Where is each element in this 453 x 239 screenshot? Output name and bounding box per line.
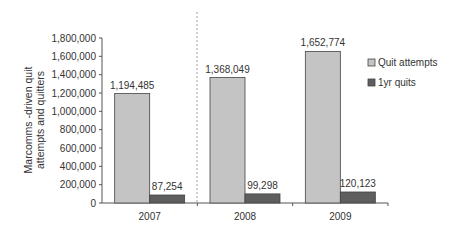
- bar-1yr-quits-2007: [150, 195, 185, 203]
- bars: 1,194,48587,2541,368,04999,2981,652,7741…: [110, 37, 376, 203]
- x-tick-label: 2008: [234, 211, 257, 222]
- legend: Quit attempts1yr quits: [368, 57, 437, 88]
- legend-label: 1yr quits: [378, 77, 416, 88]
- y-tick-label: 1,400,000: [52, 69, 97, 80]
- legend-label: Quit attempts: [378, 57, 437, 68]
- y-tick-label: 1,000,000: [52, 106, 97, 117]
- legend-swatch: [368, 59, 375, 66]
- y-tick-label: 0: [90, 198, 96, 209]
- bar-1yr-quits-2009: [340, 192, 375, 203]
- bar-value-label: 1,368,049: [205, 64, 250, 75]
- y-axis: 0200,000400,000600,000800,0001,000,0001,…: [52, 33, 103, 209]
- y-tick-label: 800,000: [60, 124, 97, 135]
- y-axis-label-line: attempts and quitters: [34, 71, 46, 169]
- y-tick-label: 1,600,000: [52, 51, 97, 62]
- bar-value-label: 1,652,774: [301, 37, 346, 48]
- bar-chart: Marcomms -driven quitattempts and quitte…: [0, 0, 453, 239]
- y-axis-label: Marcomms -driven quitattempts and quitte…: [22, 67, 46, 174]
- bar-quit-attempts-2008: [210, 78, 245, 203]
- bar-quit-attempts-2007: [115, 94, 150, 203]
- x-tick-label: 2007: [139, 211, 162, 222]
- y-axis-label-line: Marcomms -driven quit: [22, 67, 34, 174]
- bar-1yr-quits-2008: [245, 194, 280, 203]
- y-tick-label: 400,000: [60, 161, 97, 172]
- x-tick-label: 2009: [329, 211, 352, 222]
- bar-value-label: 99,298: [247, 180, 278, 191]
- y-tick-label: 1,800,000: [52, 33, 97, 44]
- legend-swatch: [368, 79, 375, 86]
- bar-value-label: 120,123: [340, 178, 377, 189]
- y-tick-label: 600,000: [60, 143, 97, 154]
- y-tick-label: 1,200,000: [52, 88, 97, 99]
- bar-quit-attempts-2009: [305, 51, 340, 203]
- x-axis: 200720082009: [102, 203, 388, 222]
- bar-value-label: 87,254: [152, 181, 183, 192]
- y-tick-label: 200,000: [60, 179, 97, 190]
- bar-value-label: 1,194,485: [110, 80, 155, 91]
